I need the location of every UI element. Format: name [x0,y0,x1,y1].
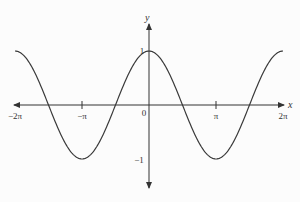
y-axis-label: y [144,12,150,23]
tick-label-one: 1 [140,46,145,56]
x-axis-label: x [287,99,293,110]
tick-label-zero: 0 [142,108,147,118]
tick-label-neg-2pi: −2π [8,111,23,121]
tick-label-pi: π [214,111,219,121]
cosine-chart: y x −2π −π 0 π 2π 1 −1 [0,0,300,202]
tick-label-2pi: 2π [278,111,288,121]
tick-label-neg-pi: −π [77,111,87,121]
tick-label-neg-one: −1 [134,155,144,165]
